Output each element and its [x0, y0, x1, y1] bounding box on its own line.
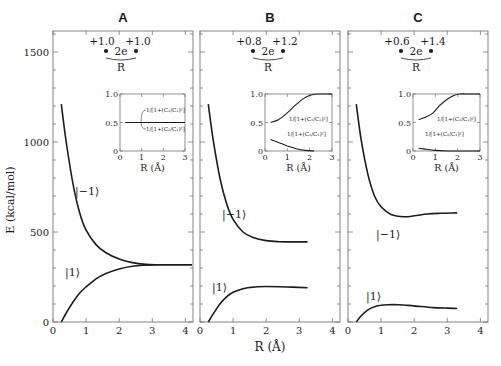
inset-label-c2-c1: 1/[1+(C₂/C₁)²]	[287, 131, 326, 137]
x-tick-label: 2	[116, 325, 122, 336]
x-tick-label: 0	[50, 325, 56, 336]
curve-one	[61, 265, 192, 322]
inset-y-tick-label: 0	[113, 147, 118, 156]
x-tick-label: 4	[329, 325, 335, 336]
label-one-state: |1⟩	[65, 266, 80, 280]
inset-y-tick-label: 1.0	[250, 90, 263, 99]
inset-x-tick-label: 0	[410, 153, 415, 162]
right-nucleus	[134, 49, 138, 53]
x-tick-label: 1	[83, 325, 89, 336]
inset-y-tick-label: 0	[406, 147, 411, 156]
inset-y-tick-label: 0.5	[250, 119, 263, 128]
x-tick-label: 3	[149, 325, 155, 336]
electron-count: 2e	[115, 45, 128, 57]
inset-x-tick-label: 2	[161, 153, 166, 162]
label-minus-one-state: |−1⟩	[376, 228, 400, 242]
inset-plot: 012300.51.0R (Å)1/[1+(C₁/C₂)²]1/[1+(C₂/C…	[398, 90, 482, 173]
panel-title: A	[118, 10, 128, 25]
distance-brace	[253, 58, 283, 60]
y-tick-label: 0	[43, 317, 49, 328]
inset-plot: 012300.51.0R (Å)1/[1+(C₁/C₂)²]1/[1+(C₂/C…	[105, 90, 187, 173]
inset-y-tick-label: 1.0	[105, 90, 118, 99]
label-minus-one-state: |−1⟩	[222, 208, 246, 222]
inset-y-tick-label: 0	[258, 147, 263, 156]
y-tick-label: 1500	[24, 47, 49, 58]
distance-brace	[401, 58, 431, 60]
left-charge: +0.8	[236, 35, 262, 47]
inset-x-tick-label: 2	[307, 153, 312, 162]
x-tick-label: 3	[296, 325, 302, 336]
right-nucleus	[281, 49, 285, 53]
distance-brace	[106, 58, 136, 60]
inset-label-c1-c2: 1/[1+(C₁/C₂)²]	[437, 116, 476, 122]
inset-x-axis-label: R (Å)	[140, 162, 164, 173]
x-tick-label: 2	[411, 325, 417, 336]
left-charge: +0.6	[384, 35, 410, 47]
inset-label-c1-c2: 1/[1+(C₁/C₂)²]	[146, 107, 185, 113]
right-charge: +1.2	[272, 35, 298, 47]
inset-label-c2-c1: 1/[1+(C₂/C₁)²]	[425, 131, 464, 137]
x-tick-label: 4	[182, 325, 188, 336]
label-one-state: |1⟩	[212, 281, 227, 295]
right-charge: +1.4	[420, 35, 446, 47]
inset-x-tick-label: 2	[455, 153, 460, 162]
left-nucleus	[104, 49, 108, 53]
x-tick-label: 0	[197, 325, 203, 336]
inset-x-tick-label: 0	[117, 153, 122, 162]
panel-title: C	[413, 10, 423, 25]
panel-a: A01234050010001500+1.0+1.02eR|−1⟩|1⟩0123…	[24, 10, 193, 336]
panel-c: C01234+0.6+1.42eR|−1⟩|1⟩012300.51.0R (Å)…	[345, 10, 488, 336]
inset-plot: 012300.51.0R (Å)1/[1+(C₁/C₂)²]1/[1+(C₂/C…	[250, 90, 334, 173]
inset-x-tick-label: 3	[329, 153, 334, 162]
label-one-state: |1⟩	[366, 290, 381, 304]
panel-title: B	[265, 10, 274, 25]
left-nucleus	[399, 49, 403, 53]
inset-x-tick-label: 1	[433, 153, 438, 162]
y-axis-label: E (kcal/mol)	[4, 166, 17, 233]
energy-figure: E (kcal/mol)R (Å)A01234050010001500+1.0+…	[0, 0, 501, 366]
x-tick-label: 2	[263, 325, 269, 336]
curve-one	[356, 305, 457, 323]
inset-x-axis-label: R (Å)	[286, 162, 310, 173]
inset-x-tick-label: 0	[262, 153, 267, 162]
distance-label: R	[117, 61, 126, 73]
right-charge: +1.0	[125, 35, 151, 47]
inset-x-tick-label: 3	[182, 153, 187, 162]
x-tick-label: 1	[230, 325, 236, 336]
x-tick-label: 1	[378, 325, 384, 336]
inset-y-tick-label: 1.0	[398, 90, 411, 99]
inset-x-tick-label: 3	[477, 153, 482, 162]
x-tick-label: 3	[444, 325, 450, 336]
panel-b: B01234+0.8+1.22eR|−1⟩|1⟩012300.51.0R (Å)…	[197, 10, 340, 336]
x-axis-label: R (Å)	[255, 339, 286, 354]
inset-x-tick-label: 1	[285, 153, 290, 162]
left-nucleus	[251, 49, 255, 53]
distance-label: R	[264, 61, 273, 73]
inset-label-c2-c1: 1/[1+(C₂/C₁)²]	[146, 126, 185, 132]
left-charge: +1.0	[89, 35, 115, 47]
electron-count: 2e	[262, 45, 275, 57]
plot-frame	[200, 31, 340, 322]
inset-label-c1-c2: 1/[1+(C₁/C₂)²]	[289, 116, 328, 122]
inset-y-tick-label: 0.5	[398, 119, 411, 128]
label-minus-one-state: |−1⟩	[75, 185, 99, 199]
y-tick-label: 500	[30, 227, 49, 238]
x-tick-label: 0	[345, 325, 351, 336]
electron-count: 2e	[410, 45, 423, 57]
inset-x-axis-label: R (Å)	[434, 162, 458, 173]
distance-label: R	[412, 61, 421, 73]
x-tick-label: 4	[477, 325, 483, 336]
inset-y-tick-label: 0.5	[105, 119, 118, 128]
y-tick-label: 1000	[24, 137, 49, 148]
inset-x-tick-label: 1	[139, 153, 144, 162]
right-nucleus	[429, 49, 433, 53]
